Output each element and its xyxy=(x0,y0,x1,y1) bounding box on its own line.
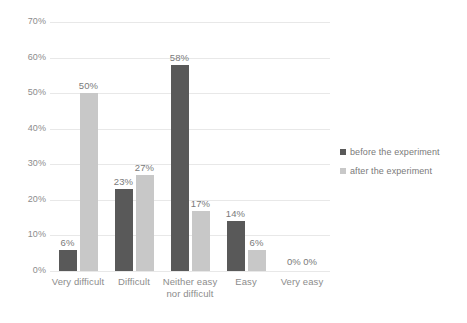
bar-slot-0: 23% xyxy=(115,22,133,271)
bar-after[interactable] xyxy=(136,175,154,271)
y-axis-tick-40%: 40% xyxy=(6,123,46,133)
data-label: 14% xyxy=(226,208,245,219)
legend-item-after[interactable]: after the experiment xyxy=(340,161,440,180)
bar-before[interactable] xyxy=(227,221,245,271)
bar-chart: 0%10%20%30%40%50%60%70% 6%50%23%27%58%17… xyxy=(0,0,467,323)
data-label: 6% xyxy=(61,237,75,248)
bar-slot-1 xyxy=(304,22,322,271)
bar-after[interactable] xyxy=(248,250,266,271)
y-axis-tick-10%: 10% xyxy=(6,229,46,239)
bar-slot-1: 27% xyxy=(136,22,154,271)
bars-container xyxy=(274,22,330,271)
x-axis-label-2: Neither easynor difficult xyxy=(162,276,218,300)
bar-slot-1: 6% xyxy=(248,22,266,271)
data-label: 58% xyxy=(170,52,189,63)
bar-group-3: 14%6% xyxy=(218,22,274,271)
y-axis-tick-30%: 30% xyxy=(6,158,46,168)
x-axis-label-3: Easy xyxy=(218,276,274,288)
x-axis-label-line: Difficult xyxy=(106,276,162,288)
x-axis-label-line: Neither easy xyxy=(162,276,218,288)
bars-container: 58%17% xyxy=(162,22,218,271)
bar-slot-1: 50% xyxy=(80,22,98,271)
bars-container: 14%6% xyxy=(218,22,274,271)
bar-group-4: 0% 0% xyxy=(274,22,330,271)
bar-after[interactable] xyxy=(192,211,210,271)
x-axis-label-1: Difficult xyxy=(106,276,162,288)
legend-item-before[interactable]: before the experiment xyxy=(340,142,440,161)
data-label: 50% xyxy=(79,80,98,91)
bar-before[interactable] xyxy=(59,250,77,271)
data-label: 27% xyxy=(135,162,154,173)
bar-slot-0: 58% xyxy=(171,22,189,271)
gridline-0% xyxy=(50,271,330,272)
legend-swatch-icon xyxy=(340,168,346,174)
legend-swatch-icon xyxy=(340,149,346,155)
bars-container: 6%50% xyxy=(50,22,106,271)
bar-slot-0: 14% xyxy=(227,22,245,271)
y-axis-tick-60%: 60% xyxy=(6,52,46,62)
bars-container: 23%27% xyxy=(106,22,162,271)
bar-slot-0 xyxy=(283,22,301,271)
plot-area: 6%50%23%27%58%17%14%6%0% 0% xyxy=(50,22,330,271)
legend-label: before the experiment xyxy=(350,147,440,157)
chart-legend: before the experimentafter the experimen… xyxy=(340,142,440,180)
bar-after[interactable] xyxy=(80,93,98,271)
x-axis-label-line: Very easy xyxy=(274,276,330,288)
bar-before[interactable] xyxy=(115,189,133,271)
y-axis-tick-70%: 70% xyxy=(6,16,46,26)
bar-slot-0: 6% xyxy=(59,22,77,271)
x-axis-label-line: Very difficult xyxy=(50,276,106,288)
y-axis-tick-0%: 0% xyxy=(6,265,46,275)
x-axis-label-line: nor difficult xyxy=(162,288,218,300)
y-axis-tick-20%: 20% xyxy=(6,194,46,204)
bar-group-1: 23%27% xyxy=(106,22,162,271)
data-label: 6% xyxy=(250,237,264,248)
x-axis-label-4: Very easy xyxy=(274,276,330,288)
data-label: 17% xyxy=(191,198,210,209)
data-label: 23% xyxy=(114,176,133,187)
legend-label: after the experiment xyxy=(350,166,432,176)
x-axis-label-line: Easy xyxy=(218,276,274,288)
bar-group-0: 6%50% xyxy=(50,22,106,271)
bar-before[interactable] xyxy=(171,65,189,271)
y-axis-tick-50%: 50% xyxy=(6,87,46,97)
bar-group-2: 58%17% xyxy=(162,22,218,271)
bar-slot-1: 17% xyxy=(192,22,210,271)
x-axis-label-0: Very difficult xyxy=(50,276,106,288)
